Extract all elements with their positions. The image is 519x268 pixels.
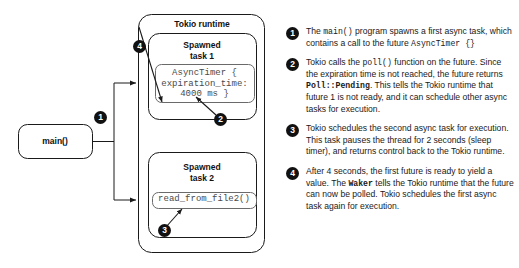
legend-text-4: After 4 seconds, the first future is rea… bbox=[306, 166, 514, 212]
legend-badge-2: 2 bbox=[286, 58, 299, 71]
diagram-badge-3: 3 bbox=[158, 224, 171, 237]
diagram-badge-4: 4 bbox=[133, 40, 146, 53]
legend-item-4: 4After 4 seconds, the first future is re… bbox=[286, 166, 514, 212]
legend-item-1: 1The main() program spawns a first async… bbox=[286, 26, 514, 49]
legend-list: 1The main() program spawns a first async… bbox=[286, 26, 514, 220]
legend-text-fragment: The bbox=[306, 26, 323, 36]
legend-text-1: The main() program spawns a first async … bbox=[306, 26, 514, 49]
legend-item-2: 2Tokio calls the poll() function on the … bbox=[286, 57, 514, 115]
legend-code-token: Waker bbox=[348, 179, 373, 188]
tokio-runtime-label: Tokio runtime bbox=[148, 19, 256, 30]
diagram-badge-2: 2 bbox=[214, 113, 227, 126]
arrow-step-2 bbox=[196, 97, 216, 115]
legend-text-3: Tokio schedules the second async task fo… bbox=[306, 123, 514, 158]
legend-text-fragment: Tokio schedules the second async task fo… bbox=[306, 123, 509, 156]
diagram-canvas: main() Tokio runtime Spawned task 1 Asyn… bbox=[0, 0, 519, 268]
legend-badge-3: 3 bbox=[286, 124, 299, 137]
legend-text-2: Tokio calls the poll() function on the f… bbox=[306, 57, 514, 115]
legend-text-fragment: Tokio calls the bbox=[306, 57, 362, 67]
legend-item-3: 3Tokio schedules the second async task f… bbox=[286, 123, 514, 158]
diagram-badge-1: 1 bbox=[94, 111, 107, 124]
legend-code-token: poll() bbox=[362, 58, 391, 67]
legend-badge-1: 1 bbox=[286, 27, 299, 40]
async-timer-code-label: AsyncTimer { expiration_time: 4000 ms } bbox=[155, 68, 254, 100]
legend-badge-4: 4 bbox=[286, 167, 299, 180]
legend-code-token: main() bbox=[323, 27, 352, 36]
legend-code-token: AsyncTimer {} bbox=[411, 39, 475, 48]
read-from-file2-code-label: read_from_file2() bbox=[152, 194, 256, 205]
spawned-task-1-label: Spawned task 1 bbox=[148, 40, 256, 62]
spawned-task-2-label: Spawned task 2 bbox=[148, 162, 256, 184]
legend-code-token: Poll::Pending bbox=[306, 81, 370, 90]
main-function-label: main() bbox=[18, 136, 92, 147]
